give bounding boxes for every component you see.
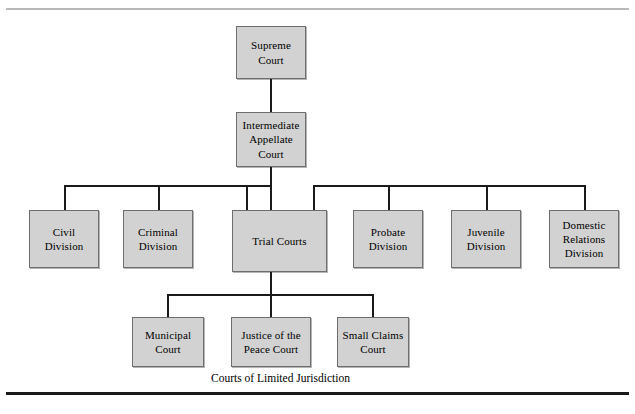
node-intermediate-appellate-court-label: Intermediate Appellate Court [240,118,302,160]
node-civil-division: Civil Division [29,210,99,268]
node-supreme-court-label: Supreme Court [240,38,302,66]
node-probate-division: Probate Division [353,210,423,268]
node-domestic-relations-division: Domestic Relations Division [549,210,619,268]
node-criminal-division-label: Criminal Division [127,225,189,253]
court-system-hierarchy-diagram: Supreme Court Intermediate Appellate Cou… [0,0,635,414]
connector-drop-domestic-relations-division [584,185,586,210]
connector-drop-civil-division [64,185,66,210]
connector-drop-municipal-court [167,294,169,317]
connector-bus-left [64,185,270,187]
connector-drop-juvenile-division [486,185,488,210]
connector-drop-criminal-division [158,185,160,210]
node-probate-division-label: Probate Division [357,225,419,253]
node-justice-of-the-peace-court: Justice of the Peace Court [231,317,311,367]
connector-drop-justice-of-the-peace-court [270,294,272,317]
node-supreme-court: Supreme Court [236,26,306,79]
connector-drop-small-claims-court [372,294,374,317]
connector-appellate-to-trial-courts [270,167,272,210]
node-small-claims-court: Small Claims Court [337,317,409,367]
connector-drop-probate-division [388,185,390,210]
connector-supreme-to-appellate [270,79,272,112]
node-civil-division-label: Civil Division [33,225,95,253]
node-juvenile-division: Juvenile Division [451,210,521,268]
node-intermediate-appellate-court: Intermediate Appellate Court [236,112,306,167]
node-municipal-court-label: Municipal Court [136,328,200,356]
node-justice-of-the-peace-court-label: Justice of the Peace Court [235,328,307,356]
connector-bus-right [313,185,586,187]
node-trial-courts-label: Trial Courts [236,234,323,248]
connector-trial-courts-to-lower-bus [270,272,272,294]
node-juvenile-division-label: Juvenile Division [455,225,517,253]
figure-bottom-rule [6,392,629,395]
node-small-claims-court-label: Small Claims Court [341,328,405,356]
connector-drop-trial-courts-right [313,185,315,210]
node-criminal-division: Criminal Division [123,210,193,268]
connector-drop-trial-courts-left [246,185,248,210]
node-trial-courts: Trial Courts [232,210,327,272]
node-municipal-court: Municipal Court [132,317,204,367]
node-domestic-relations-division-label: Domestic Relations Division [553,218,615,260]
figure-caption: Courts of Limited Jurisdiction [211,372,350,384]
figure-top-rule [6,8,629,10]
